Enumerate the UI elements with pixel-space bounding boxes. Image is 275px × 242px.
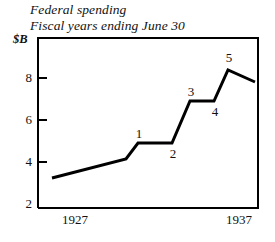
point-annotation-2: 2 — [166, 146, 180, 162]
y-tick-label-8: 8 — [14, 70, 32, 86]
y-tick-label-4: 4 — [14, 154, 32, 170]
x-tick-label-1927: 1927 — [52, 212, 98, 228]
point-annotation-4: 4 — [208, 104, 222, 120]
y-tick-label-6: 6 — [14, 112, 32, 128]
data-line-federal-spending — [52, 70, 255, 178]
x-tick-label-1937: 1937 — [216, 212, 262, 228]
point-annotation-5: 5 — [222, 50, 236, 66]
point-annotation-1: 1 — [132, 126, 146, 142]
plot-canvas — [0, 0, 275, 242]
point-annotation-3: 3 — [184, 84, 198, 100]
y-tick-label-2: 2 — [14, 196, 32, 212]
chart-figure: Federal spending Fiscal years ending Jun… — [0, 0, 275, 242]
